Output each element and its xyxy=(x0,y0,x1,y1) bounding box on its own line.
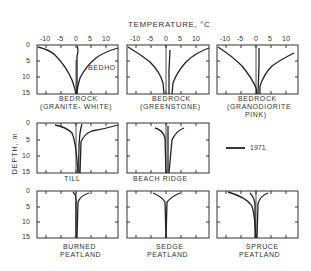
xtick: 10 xyxy=(282,35,290,42)
xtick: -10 xyxy=(130,35,140,42)
panel-label: SEDGE xyxy=(156,243,184,250)
panel-label: TILL xyxy=(64,175,80,182)
xtick: 5 xyxy=(178,35,182,42)
xtick: 10 xyxy=(192,35,200,42)
xtick: -5 xyxy=(57,35,63,42)
panel-label: BEDROCK xyxy=(59,95,98,102)
ytick: 10 xyxy=(22,73,30,80)
annotation-bedho: BEDHO xyxy=(88,64,116,71)
ytick: 5 xyxy=(26,57,30,64)
xtick: -10 xyxy=(220,35,230,42)
xtick: 0 xyxy=(74,35,78,42)
ytick: 5 xyxy=(26,136,30,143)
ytick: 15 xyxy=(22,233,30,240)
ytick: 0 xyxy=(26,187,30,194)
ytick: 0 xyxy=(26,119,30,126)
panel-granodiorite xyxy=(217,45,298,94)
xtick: 5 xyxy=(268,35,272,42)
xtick: -5 xyxy=(147,35,153,42)
panel-label: BEACH RIDGE xyxy=(133,175,188,182)
panel-label: BURNED xyxy=(63,243,96,250)
ytick: 0 xyxy=(26,41,30,48)
panel-label: (GRANITE- WHITE) xyxy=(40,103,112,110)
xtick: -5 xyxy=(237,35,243,42)
xtick: 5 xyxy=(88,35,92,42)
ytick: 10 xyxy=(22,152,30,159)
panel-label: PINK) xyxy=(245,111,267,118)
xtick: -10 xyxy=(40,35,50,42)
xtick: 10 xyxy=(102,35,110,42)
panel-sedge-peatland xyxy=(127,191,209,238)
ytick: 15 xyxy=(22,89,30,96)
panel-greenstone xyxy=(127,45,209,94)
chart-title: TEMPERATURE, °C xyxy=(128,20,210,29)
data-curves xyxy=(38,45,294,238)
panel-label: PEATLAND xyxy=(147,251,188,258)
panel-label: PEATLAND xyxy=(239,251,280,258)
ytick: 15 xyxy=(22,168,30,175)
panel-label: PEATLAND xyxy=(60,251,101,258)
ytick: 5 xyxy=(26,203,30,210)
panel-label: (GRANODIORITE xyxy=(227,103,291,110)
xtick: 0 xyxy=(164,35,168,42)
y-axis-label: DEPTH, m xyxy=(11,133,18,174)
panel-label: BEDROCK xyxy=(238,95,277,102)
panel-label: SPRUCE xyxy=(246,243,279,250)
ytick: 10 xyxy=(22,218,30,225)
panel-label: BEDROCK xyxy=(152,95,191,102)
panel-label: (GREENSTONE) xyxy=(140,103,201,110)
legend-label: 1971 xyxy=(250,144,266,151)
xtick: 0 xyxy=(254,35,258,42)
